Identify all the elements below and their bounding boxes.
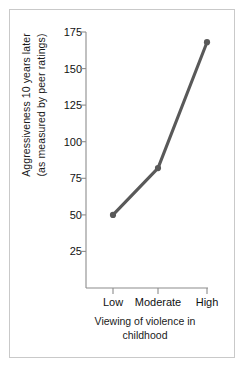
chart-canvas bbox=[0, 0, 244, 367]
data-point-moderate bbox=[155, 165, 161, 171]
data-series-line bbox=[113, 42, 207, 215]
x-axis-title-line-2: childhood bbox=[60, 328, 230, 342]
x-axis-title: Viewing of violence in childhood bbox=[60, 314, 230, 342]
x-tick-label-moderate: Moderate bbox=[135, 296, 181, 308]
data-point-low bbox=[110, 212, 116, 218]
data-point-high bbox=[204, 39, 210, 45]
y-axis-ticks bbox=[80, 32, 86, 251]
x-axis-ticks bbox=[113, 288, 207, 294]
x-tick-label-low: Low bbox=[103, 296, 123, 308]
data-point-markers bbox=[110, 39, 210, 218]
x-tick-label-high: High bbox=[196, 296, 219, 308]
x-axis-title-line-1: Viewing of violence in bbox=[60, 314, 230, 328]
chart-figure: Aggressiveness 10 years later (as measur… bbox=[0, 0, 244, 367]
